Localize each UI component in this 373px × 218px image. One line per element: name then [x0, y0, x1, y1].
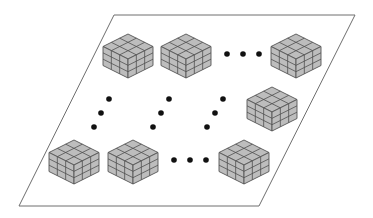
ellipsis-dot [158, 110, 164, 116]
ellipsis-dot [98, 110, 104, 116]
ellipsis-dot [150, 124, 156, 130]
ellipsis-dot [166, 96, 172, 102]
ellipsis-dot [212, 110, 218, 116]
cube-array-diagram [0, 0, 373, 218]
diagram-canvas [0, 0, 373, 218]
ellipsis-dot [91, 124, 97, 130]
ellipsis-dot [187, 157, 193, 163]
ellipsis-dot [171, 157, 177, 163]
ellipsis-dot [203, 157, 209, 163]
ellipsis-dot [256, 51, 262, 57]
ellipsis-dot [204, 124, 210, 130]
ellipsis-dot [106, 96, 112, 102]
ellipsis-dot [240, 51, 246, 57]
ellipsis-dot [224, 51, 230, 57]
ellipsis-dot [220, 96, 226, 102]
